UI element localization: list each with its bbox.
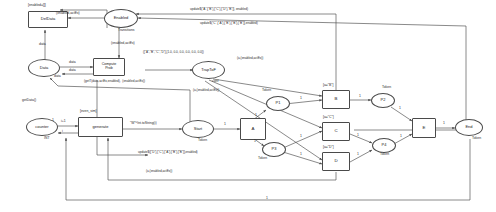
place-data-label: Data xyxy=(40,66,48,70)
transition-d-guard: [a="D"] xyxy=(323,146,334,150)
arc-label-traptof-b: (a,(enabled,actEx)) xyxy=(237,57,263,60)
arc-label-data-compute-1: data xyxy=(69,61,76,65)
arc-weight-e-end: 1 xyxy=(443,121,445,125)
place-p3-type: Token xyxy=(258,157,267,161)
arc-weight-a-p3: 1 xyxy=(254,139,256,143)
arc-weight-a-p1: 1 xyxy=(255,113,257,117)
place-traptof-label: TrapToF xyxy=(201,68,216,72)
arc-weight-counter-generate: 1 xyxy=(52,118,54,122)
place-counter-label: counter xyxy=(35,125,48,129)
place-counter-type: INT xyxy=(44,137,49,141)
arc-label-data-deldata: data xyxy=(39,43,46,47)
transition-a[interactable]: A xyxy=(240,118,266,140)
arc-label-enabled-compute: (enabled,actEx) xyxy=(111,42,135,46)
place-start-type: Token xyxy=(198,139,207,143)
place-p1-label: P1 xyxy=(276,101,281,105)
place-p3[interactable]: P3 xyxy=(262,142,286,157)
arc-weight-end-loop: 1 xyxy=(266,196,268,200)
arc-label-enabled-deldata: (enabled,actEx) xyxy=(56,12,80,16)
place-p2-label: P2 xyxy=(381,98,386,102)
cpn-diagram-canvas: DelData [enabled=[]] Compute Prob genera… xyxy=(0,0,496,212)
arc-label-traptof-c: (a,(enabled,actEx)) xyxy=(193,89,219,92)
arc-weight-p1-b: 1 xyxy=(300,96,302,100)
place-enabled-label: Enabled xyxy=(114,16,129,20)
arc-weight-c-p4: 1 xyxy=(357,133,359,137)
place-enabled-type: Transitions xyxy=(118,29,134,33)
arc-label-compute-output: (getT(data,actEx,enabled), (enabled,actE… xyxy=(84,80,145,83)
arc-label-data-return: data xyxy=(54,75,61,79)
place-traptof[interactable]: TrapToF xyxy=(192,61,225,79)
arc-label-update-d: update$(["D"],["C"],["A"],["B"],["B"]],e… xyxy=(138,151,198,154)
transition-generate[interactable]: generate xyxy=(78,117,123,137)
transition-e[interactable]: E xyxy=(412,118,436,138)
arc-weight-p3-d: 1 xyxy=(300,152,302,156)
place-traptof-type: conf xyxy=(212,80,218,84)
transition-b-label: B xyxy=(335,97,338,102)
place-p4-type: Token xyxy=(380,153,389,157)
arc-label-generate-output: "W"^Int.toString(i) xyxy=(130,122,157,126)
place-p1-type: Token xyxy=(262,89,271,93)
transition-generate-label: generate xyxy=(93,125,109,129)
arc-weight-d-p4: 1 xyxy=(357,152,359,156)
arc-label-update-b: update$("A",["B"],["C"],["D"],"B"]], ena… xyxy=(190,8,248,11)
place-start[interactable]: Start xyxy=(182,120,214,138)
place-enabled[interactable]: Enabled xyxy=(104,9,138,28)
transition-compute-prob[interactable]: Compute Prob xyxy=(93,58,125,76)
place-p4[interactable]: P4 xyxy=(372,138,396,153)
transition-c-guard: [a="C"] xyxy=(323,116,334,120)
arc-label-data-compute-2: data xyxy=(69,69,76,73)
arc-weight-p2-e: 1 xyxy=(399,106,401,110)
transition-deldata-guard: [enabled=[]] xyxy=(28,4,46,8)
arc-weight-p4-e: 1 xyxy=(400,134,402,138)
place-end-type: Token xyxy=(472,137,481,141)
transition-deldata-label: DelData xyxy=(41,17,55,21)
place-start-label: Start xyxy=(194,127,202,131)
transition-e-label: E xyxy=(423,126,426,131)
place-p3-label: P3 xyxy=(272,147,277,151)
arc-label-counter-read: i xyxy=(62,130,63,134)
transition-a-label: A xyxy=(252,127,255,132)
place-p2[interactable]: P2 xyxy=(371,93,395,108)
arc-layer xyxy=(0,0,496,212)
transition-b-guard: [a="B"] xyxy=(323,84,333,88)
transition-compute-prob-label: Compute Prob xyxy=(102,63,117,71)
transition-d-label: D xyxy=(334,159,337,164)
place-p4-label: P4 xyxy=(382,143,387,147)
transition-c[interactable]: C xyxy=(322,122,350,141)
transition-d[interactable]: D xyxy=(322,152,350,171)
transition-generate-guard: [even_sim] xyxy=(80,110,96,114)
arc-label-probability-vector: (["A","B","C","D"],[1.0, 0.0, 0.0, 0.0, … xyxy=(143,51,204,54)
arc-weight-start-a: 1 xyxy=(224,122,226,126)
place-p1[interactable]: P1 xyxy=(266,96,290,111)
arc-label-getdata: getData() xyxy=(22,99,36,103)
arc-weight-b-p2: 1 xyxy=(359,94,361,98)
arc-label-traptof-d: (a,(enabled,actEx)) xyxy=(146,170,172,173)
arc-label-update-c: update$("C",["A"],["B"],["B"],["B"]],ena… xyxy=(200,22,258,25)
place-end-label: End xyxy=(465,125,472,129)
place-end[interactable]: End xyxy=(455,119,483,136)
transition-b[interactable]: B xyxy=(322,90,350,109)
arc-weight-p3-c: 1 xyxy=(300,134,302,138)
transition-c-label: C xyxy=(334,129,337,134)
place-p2-type: Token xyxy=(382,86,391,90)
arc-label-counter-increment: i+1 xyxy=(61,120,66,124)
